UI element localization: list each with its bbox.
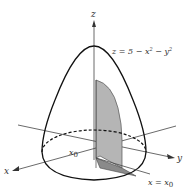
x0-label: x0 (69, 148, 78, 159)
y-axis-label: y (176, 153, 183, 163)
plane-label: x = x0 (148, 178, 173, 189)
x-axis-label: x (4, 166, 9, 176)
cross-section-slab (96, 80, 122, 168)
surface-equation-label: z = 5 − x2 − y2 (111, 46, 172, 56)
y-axis-arrow-icon (167, 154, 175, 159)
z-axis-label: z (90, 9, 96, 19)
paraboloid-left-side (42, 100, 55, 152)
z-axis-arrow-icon (92, 20, 96, 27)
paraboloid-diagram: x y z z = 5 − x2 − y2 x0 x = x0 (0, 0, 189, 195)
x-axis-arrow-icon (12, 166, 19, 171)
